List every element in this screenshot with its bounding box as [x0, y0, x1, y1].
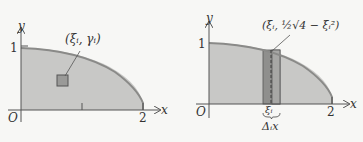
right-y-axis-label: y: [206, 12, 213, 24]
right-point-label: (ξᵢ, ½√4 − ξᵢ²): [262, 20, 339, 31]
left-tick-x-label: 2: [139, 112, 147, 124]
left-origin-label: O: [8, 112, 18, 124]
left-area-element: [57, 75, 68, 86]
right-leader-line: [272, 35, 290, 51]
left-x-axis-label: x: [161, 104, 168, 116]
right-x-axis-label: x: [350, 98, 357, 110]
left-tick-y-label: 1: [10, 42, 18, 54]
right-origin-label: O: [196, 106, 206, 118]
right-tick-y-label: 1: [198, 38, 206, 50]
right-xi-label: ξᵢ: [265, 105, 273, 115]
right-strip-light: [272, 50, 280, 104]
right-tick-x-label: 2: [327, 106, 335, 118]
left-point-label: (ξᵢ, γᵢ): [65, 33, 101, 45]
left-y-axis-label: y: [18, 20, 25, 32]
right-dx-label: Δᵢx: [262, 121, 278, 132]
